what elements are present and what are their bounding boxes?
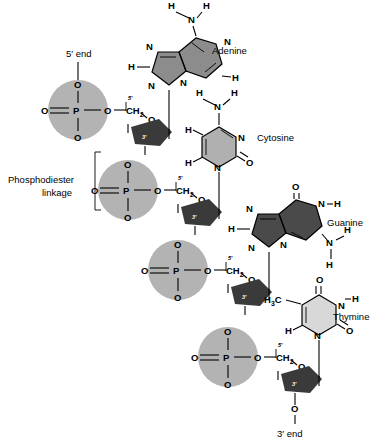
adenine-n3: N xyxy=(180,77,187,88)
phosphate-group-1: O P O O O xyxy=(41,79,111,143)
phosphate-1-o-top: O xyxy=(74,79,81,90)
thymine-n1: N xyxy=(314,330,321,341)
cytosine-h5: H xyxy=(185,124,192,135)
three-prime-terminal-o: O xyxy=(291,403,298,414)
sugar-2-ch2: CH2 xyxy=(176,185,194,198)
sugar-3-three-prime: 3′ xyxy=(242,294,247,300)
phosphate-3-o-bottom: O xyxy=(174,292,181,303)
cytosine-n3: N xyxy=(238,132,245,143)
thymine-ring-fill xyxy=(302,295,336,335)
sugar-4-three-prime: 3′ xyxy=(292,381,297,387)
cytosine-amino-h1: H xyxy=(196,87,203,98)
phosphate-1-p: P xyxy=(73,105,80,116)
nucleotide-3-guanine: O P O O O CH2 5′ O 3′ xyxy=(141,181,363,315)
thymine-n3: N xyxy=(338,300,345,311)
sugar-1-three-prime: 3′ xyxy=(142,134,147,140)
cytosine-amino-h2: H xyxy=(231,87,238,98)
guanine-n9: N xyxy=(248,242,255,253)
base-thymine: N N H O O H H3C Thymine xyxy=(264,274,369,341)
phosphate-4-o-right: O xyxy=(254,352,261,363)
phosphodiester-label-line2: linkage xyxy=(42,187,72,198)
phosphate-group-3: O P O O O xyxy=(141,239,211,303)
phosphate-1-o-left: O xyxy=(41,105,48,116)
base-adenine: N N N N H H N H H Adenine xyxy=(128,0,247,91)
cytosine-label: Cytosine xyxy=(257,132,294,143)
guanine-amino-n: N xyxy=(326,237,333,248)
phosphate-1-o-right: O xyxy=(104,105,111,116)
dna-strand-figure: 5′ end O P O O O CH2 5′ O 3′ xyxy=(0,0,377,443)
sugar-3-ch2: CH2 xyxy=(226,265,244,278)
guanine-label: Guanine xyxy=(327,217,363,228)
phosphate-2-o-left: O xyxy=(91,185,98,196)
adenine-amino-h1: H xyxy=(168,0,175,11)
adenine-amino-h2: H xyxy=(203,0,210,11)
sugar-4-five-prime: 5′ xyxy=(278,342,283,348)
phosphate-3-p: P xyxy=(173,265,180,276)
thymine-methyl: H3C xyxy=(264,294,282,307)
phosphate-2-p: P xyxy=(123,185,130,196)
phosphodiester-label-line1: Phosphodiester xyxy=(8,174,74,185)
guanine-h8: H xyxy=(228,223,235,234)
phosphate-3-o-right: O xyxy=(204,265,211,276)
thymine-o2: O xyxy=(346,325,353,336)
sugar-2-pentagon xyxy=(181,199,222,226)
adenine-h8: H xyxy=(128,61,135,72)
phosphate-3-o-left: O xyxy=(141,265,148,276)
phosphate-2-o-right: O xyxy=(154,185,161,196)
phosphodiester-linkage-annotation: Phosphodiester linkage xyxy=(8,152,101,210)
phosphate-group-2: O P O O O xyxy=(91,159,161,223)
guanine-o6: O xyxy=(292,181,299,192)
phosphate-2-o-bottom: O xyxy=(124,212,131,223)
phosphate-group-4: O P O O O xyxy=(191,326,261,390)
three-prime-end-label: 3′ end xyxy=(277,428,303,439)
sugar-1-pentagon xyxy=(131,119,172,146)
sugar-2-three-prime: 3′ xyxy=(192,214,197,220)
guanine-n3: N xyxy=(280,239,287,250)
phosphate-2-o-top: O xyxy=(124,159,131,170)
guanine-n1: N xyxy=(318,198,325,209)
five-prime-end-label: 5′ end xyxy=(66,48,92,59)
thymine-label: Thymine xyxy=(333,311,369,322)
cytosine-ring-fill xyxy=(202,127,236,167)
dna-diagram-svg: 5′ end O P O O O CH2 5′ O 3′ xyxy=(0,0,377,443)
guanine-n1-h: H xyxy=(334,198,341,209)
sugar-ring-4: O 3′ xyxy=(278,360,322,405)
adenine-n9: N xyxy=(148,80,155,91)
phosphate-4-o-top: O xyxy=(224,326,231,337)
adenine-label: Adenine xyxy=(212,45,247,56)
base-cytosine: N N H H O N H H Cytosine xyxy=(185,87,294,173)
sugar-4-pentagon xyxy=(281,366,322,393)
thymine-o4: O xyxy=(316,274,323,285)
phosphate-4-o-bottom: O xyxy=(224,379,231,390)
thymine-h6: H xyxy=(285,325,292,336)
sugar-3-five-prime: 5′ xyxy=(228,255,233,261)
sugar-1-five-prime: 5′ xyxy=(128,95,133,101)
adenine-n7: N xyxy=(146,41,153,52)
phosphate-4-p: P xyxy=(223,352,230,363)
phosphate-4-o-left: O xyxy=(191,352,198,363)
adenine-amino-n: N xyxy=(188,14,195,25)
cytosine-h6: H xyxy=(185,157,192,168)
sugar-2-five-prime: 5′ xyxy=(178,175,183,181)
phosphate-1-o-bottom: O xyxy=(74,132,81,143)
sugar-4-ch2: CH2 xyxy=(276,352,294,365)
sugar-ring-2: O 3′ xyxy=(178,193,222,235)
sugar-ring-1: O 3′ xyxy=(128,113,172,155)
cytosine-amino-n: N xyxy=(214,101,221,112)
cytosine-o2: O xyxy=(246,157,253,168)
adenine-h2: H xyxy=(232,72,239,83)
phosphate-3-o-top: O xyxy=(174,239,181,250)
guanine-n7: N xyxy=(246,203,253,214)
nucleotide-4-thymine: O P O O O CH2 5′ O 3′ xyxy=(191,274,369,439)
guanine-amino-h2: H xyxy=(326,259,333,270)
thymine-n3-h: H xyxy=(352,293,359,304)
cytosine-n1: N xyxy=(214,162,221,173)
sugar-1-ch2: CH2 xyxy=(126,105,144,118)
base-guanine: N N N N H O H N H H Guanine xyxy=(228,181,363,270)
